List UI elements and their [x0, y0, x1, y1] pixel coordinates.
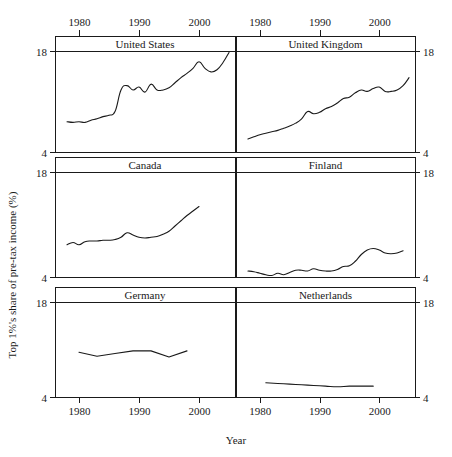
panel-frame: [237, 303, 416, 398]
panel-title-united-states: United States: [116, 38, 175, 50]
y-tick-label: 4: [42, 147, 48, 159]
facet-panel: Finland: [237, 158, 416, 278]
panel-frame: [56, 173, 236, 278]
x-tick-label-top: 2000: [369, 16, 392, 28]
y-tick-label: 18: [423, 46, 435, 58]
x-tick-label-bottom: 1980: [69, 405, 92, 417]
panel-frame: [56, 52, 236, 153]
x-tick-label-bottom: 1990: [309, 405, 332, 417]
x-tick-label-top: 2000: [189, 16, 212, 28]
panel-title-netherlands: Netherlands: [299, 289, 352, 301]
y-tick-label: 4: [423, 272, 429, 284]
panel-title-united-kingdom: United Kingdom: [288, 38, 363, 50]
x-tick-label-top: 1980: [69, 16, 92, 28]
facet-panel: Germany: [56, 288, 236, 398]
y-tick-label: 4: [42, 272, 48, 284]
x-tick-label-bottom: 2000: [369, 405, 392, 417]
y-tick-label: 4: [423, 147, 429, 159]
panel-frame: [237, 173, 416, 278]
facet-panel: United States: [56, 37, 236, 153]
facet-panel: Netherlands: [237, 288, 416, 398]
panel-frame: [56, 303, 236, 398]
y-tick-label: 18: [423, 297, 435, 309]
x-tick-label-bottom: 1990: [129, 405, 152, 417]
x-axis-label: Year: [226, 434, 247, 446]
panel-title-finland: Finland: [309, 159, 343, 171]
panel-title-germany: Germany: [125, 289, 166, 301]
y-tick-label: 18: [36, 167, 48, 179]
x-tick-label-top: 1990: [309, 16, 332, 28]
x-tick-label-top: 1980: [249, 16, 272, 28]
y-tick-label: 18: [36, 297, 48, 309]
x-tick-label-top: 1990: [129, 16, 152, 28]
y-tick-label: 18: [36, 46, 48, 58]
y-tick-label: 18: [423, 167, 435, 179]
x-tick-label-bottom: 2000: [189, 405, 212, 417]
panel-frame: [237, 52, 416, 153]
y-tick-label: 4: [423, 392, 429, 404]
panel-title-canada: Canada: [129, 159, 162, 171]
faceted-line-chart: United StatesUnited KingdomCanadaFinland…: [0, 0, 452, 457]
panels-group: United StatesUnited KingdomCanadaFinland…: [56, 37, 416, 398]
facet-panel: United Kingdom: [237, 37, 416, 153]
y-axis-label: Top 1%'s share of pre-tax income (%): [6, 191, 19, 358]
chart-figure: United StatesUnited KingdomCanadaFinland…: [0, 0, 452, 457]
y-tick-label: 4: [42, 392, 48, 404]
facet-panel: Canada: [56, 158, 236, 278]
x-tick-label-bottom: 1980: [249, 405, 272, 417]
